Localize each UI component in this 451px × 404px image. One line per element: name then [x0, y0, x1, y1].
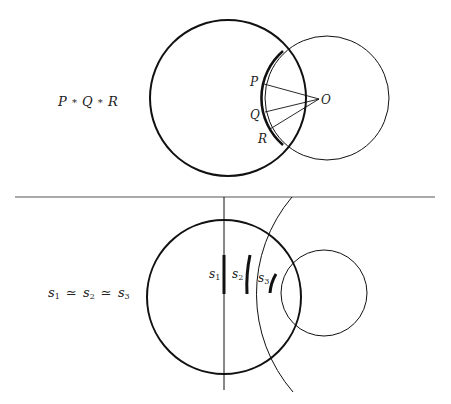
label-s1: s1	[209, 267, 220, 282]
ray-OQ	[265, 99, 319, 112]
large-circle	[150, 20, 306, 176]
small-circle-bottom	[281, 250, 367, 336]
caption-betweenness: P * Q * R	[57, 94, 118, 109]
label-s2: s2	[232, 267, 243, 282]
segment-s3	[270, 274, 276, 293]
top-panel: P Q R O P * Q * R	[57, 20, 389, 176]
label-Q: Q	[250, 108, 260, 122]
diagram-canvas: P Q R O P * Q * R s1 s2 s3 s1 ≃ s2 ≃	[0, 0, 451, 404]
orthogonal-arc	[256, 197, 293, 392]
caption-congruence: s1 ≃ s2 ≃ s3	[48, 285, 130, 302]
label-O: O	[321, 93, 331, 107]
ray-OR	[270, 99, 319, 129]
ray-OP	[264, 84, 319, 99]
bottom-panel: s1 s2 s3 s1 ≃ s2 ≃ s3	[48, 197, 367, 392]
segment-s2	[247, 255, 250, 294]
label-R: R	[257, 132, 267, 146]
label-P: P	[249, 75, 259, 89]
label-s3: s3	[258, 271, 269, 286]
